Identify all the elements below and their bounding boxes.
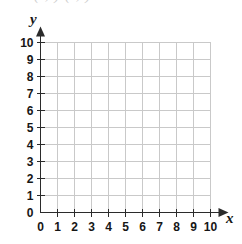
y-tick-label: 3: [27, 156, 34, 168]
y-tick-label: 1: [27, 190, 34, 202]
tick-marks-group: [37, 43, 211, 217]
graph-screenshot: ( , ) ( , ) 012345678910 012345678910 y …: [0, 0, 242, 244]
x-axis-label: x: [226, 211, 234, 226]
x-tick-label: 8: [173, 221, 180, 233]
y-axis-arrowhead: [36, 27, 45, 37]
x-tick-label: 3: [88, 221, 95, 233]
y-tick-label: 6: [27, 105, 34, 117]
y-tick-label: 0: [27, 207, 34, 219]
x-tick-label: 1: [54, 221, 61, 233]
x-tick-label: 7: [156, 221, 163, 233]
y-tick-label: 2: [27, 173, 34, 185]
y-tick-label: 8: [27, 71, 34, 83]
x-tick-label: 2: [71, 221, 78, 233]
x-tick-label: 10: [204, 221, 217, 233]
x-tick-label: 0: [37, 221, 44, 233]
x-tick-label: 9: [190, 221, 197, 233]
x-tick-label: 6: [139, 221, 146, 233]
y-tick-label: 5: [27, 122, 34, 134]
y-tick-label: 7: [27, 88, 34, 100]
coordinate-plane: [0, 0, 242, 244]
gridlines-group: [41, 43, 211, 213]
y-tick-label: 4: [27, 139, 34, 151]
y-axis-label: y: [30, 12, 37, 27]
y-tick-label: 10: [20, 37, 33, 49]
axes-group: [36, 27, 229, 218]
x-tick-label: 4: [105, 221, 112, 233]
y-tick-label: 9: [27, 54, 34, 66]
x-tick-label: 5: [122, 221, 129, 233]
